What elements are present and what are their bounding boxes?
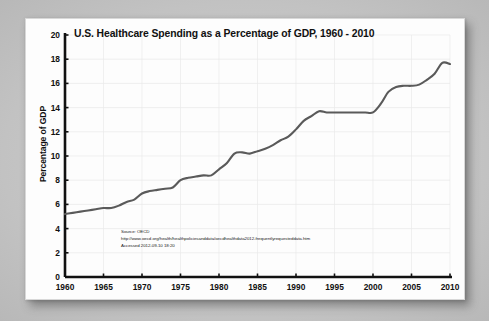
y-axis-tick-label: 14	[38, 103, 60, 113]
y-axis-tick-label: 6	[38, 199, 60, 209]
x-axis-tick-label: 1960	[45, 282, 85, 292]
y-axis-tick-label: 0	[38, 272, 60, 282]
chart-card-panel: U.S. Healthcare Spending as a Percentage…	[25, 18, 465, 300]
x-axis-tick-label: 1985	[238, 282, 278, 292]
source-line-2: http://www.oecd.org/health/healthpolicie…	[121, 235, 310, 242]
source-line-1: Source: OECD	[121, 228, 310, 235]
chart-plot-area	[26, 19, 466, 301]
source-line-3: Accessed 2012-09-10 18:20	[121, 242, 310, 249]
y-axis-tick-labels: 02468101214161820	[26, 19, 60, 301]
x-axis-tick-label: 2005	[392, 282, 432, 292]
y-axis-tick-label: 18	[38, 54, 60, 64]
y-axis-tick-label: 2	[38, 248, 60, 258]
chart-plot-wrapper: U.S. Healthcare Spending as a Percentage…	[26, 19, 466, 301]
x-axis-tick-label: 1970	[122, 282, 162, 292]
x-axis-tick-labels: 1960196519701975198019851990199520002005…	[26, 282, 466, 298]
screenshot-root: U.S. Healthcare Spending as a Percentage…	[0, 0, 489, 321]
x-axis-tick-label: 2000	[353, 282, 393, 292]
x-axis-tick-label: 1980	[199, 282, 239, 292]
x-axis-tick-label: 1975	[161, 282, 201, 292]
source-annotation: Source: OECD http://www.oecd.org/health/…	[121, 228, 310, 249]
chart-title: U.S. Healthcare Spending as a Percentage…	[74, 28, 374, 39]
y-axis-tick-label: 4	[38, 224, 60, 234]
x-axis-tick-label: 1965	[84, 282, 124, 292]
x-axis-tick-label: 2010	[430, 282, 470, 292]
y-axis-tick-label: 12	[38, 127, 60, 137]
y-axis-tick-label: 20	[38, 30, 60, 40]
x-axis-tick-label: 1995	[315, 282, 355, 292]
y-axis-tick-label: 8	[38, 175, 60, 185]
y-axis-tick-label: 10	[38, 151, 60, 161]
x-axis-tick-label: 1990	[276, 282, 316, 292]
y-axis-tick-label: 16	[38, 78, 60, 88]
